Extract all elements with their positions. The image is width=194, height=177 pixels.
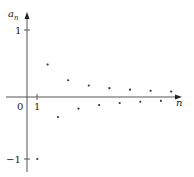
data-point [119,102,121,104]
y-axis-arrow-icon [25,12,30,19]
data-point [170,90,172,92]
data-point [108,87,110,89]
data-point [150,90,152,92]
data-point [98,104,100,106]
data-point [67,79,69,81]
y-tick-label-1: 1 [15,25,21,36]
y-axis-label: an [8,8,19,22]
data-point [129,89,131,91]
data-point [57,116,59,118]
origin-label: 0 [17,101,23,112]
data-point [88,84,90,86]
x-axis-label: n [176,97,182,108]
data-point [36,158,38,160]
data-points [36,63,172,160]
x-tick-label-1: 1 [34,101,40,112]
data-point [160,100,162,102]
data-point [47,63,49,65]
data-point [77,108,79,110]
data-point [139,101,141,103]
y-tick-label-neg1: −1 [6,154,21,165]
sequence-plot: an n 0 1 1 −1 [0,0,194,177]
